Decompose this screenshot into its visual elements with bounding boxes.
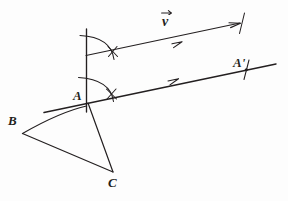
point-label-C: C (108, 176, 117, 189)
vector-label-glyph: v (162, 14, 168, 29)
triangle-side-BC (23, 134, 114, 173)
point-label-a-prime: A' (233, 56, 245, 69)
triangle-ABC (23, 103, 114, 172)
geometry-figure: A A' B C v (0, 0, 288, 201)
vector-label-v: v (162, 15, 168, 29)
point-label-B: B (8, 114, 17, 127)
triangle-side-CA (88, 103, 113, 172)
construction-canvas (0, 0, 288, 201)
point-label-A: A (73, 89, 82, 102)
direction-arrowhead-upper-ray (172, 42, 182, 48)
arc-intersection-tick-lower (107, 89, 117, 99)
